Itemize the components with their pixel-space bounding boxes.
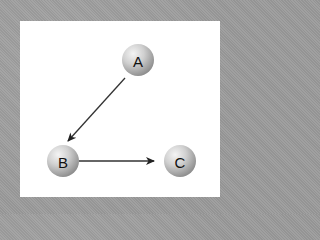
graph-canvas: A B C [0, 0, 236, 214]
node-c[interactable]: C [164, 145, 196, 177]
node-a[interactable]: A [122, 44, 154, 76]
node-b[interactable]: B [47, 145, 79, 177]
node-a-label: A [133, 53, 143, 70]
node-c-label: C [175, 154, 186, 171]
nodes: A B C [47, 44, 196, 177]
edges [68, 78, 154, 161]
edge-a-to-b [68, 78, 125, 141]
node-b-label: B [58, 154, 68, 171]
diagram-frame: A B C [0, 0, 236, 214]
